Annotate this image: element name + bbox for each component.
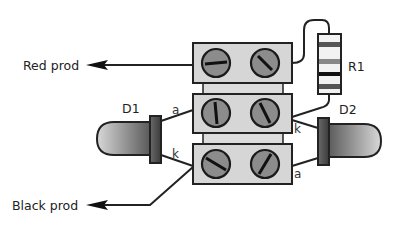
terminal-row-3 [193,144,292,184]
screw-icon[interactable] [251,99,279,127]
black-prod-label: Black prod [12,198,78,213]
d1-anode-label: a [172,103,179,117]
d2-cathode-label: k [294,122,301,136]
screw-icon[interactable] [202,150,230,178]
d1-cathode-label: k [172,147,179,161]
resistor-r1 [318,34,341,94]
terminal-row-2 [193,94,292,133]
black-prod-wire [95,167,193,205]
screw-icon[interactable] [202,99,230,127]
screw-icon[interactable] [251,150,279,178]
r1-bottom-lead [292,94,329,117]
d2-anode-label: a [294,167,301,181]
led-tester-wiring-diagram: Red prod Black prod D1 D2 R1 a k k a [0,0,396,228]
screw-icon[interactable] [251,49,279,77]
red-prod-label: Red prod [23,58,79,73]
terminal-strip [193,43,292,184]
d2-anode-wire [292,158,318,166]
terminal-row-1 [193,43,292,83]
d1-label: D1 [122,101,140,116]
r1-label: R1 [348,59,365,74]
led-d1 [97,116,161,163]
screw-icon[interactable] [202,49,230,77]
led-d2 [318,118,381,165]
d2-label: D2 [339,102,357,117]
